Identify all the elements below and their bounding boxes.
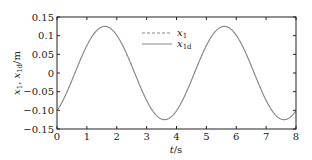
legend: x1 x1d <box>142 27 192 51</box>
y-tick-label: 0.15 <box>32 12 54 23</box>
x-tick-label: 6 <box>233 131 239 142</box>
x-tick-label: 5 <box>203 131 209 142</box>
y-tick-label: −0.05 <box>23 86 54 97</box>
x-tick-label: 7 <box>263 131 269 142</box>
y-axis-label: x1, x1d/m <box>11 51 24 95</box>
x-tick-label: 2 <box>114 131 120 142</box>
y-tick-label: 0 <box>48 68 54 79</box>
y-tick-labels: 0.150.10.050−0.05−0.10−0.15 <box>23 12 54 135</box>
y-tick-label: −0.10 <box>23 105 54 116</box>
y-tick-label: −0.15 <box>23 124 54 135</box>
x-tick-label: 0 <box>54 131 60 142</box>
x-axis-label: t/s <box>170 144 183 155</box>
x-tick-label: 8 <box>293 131 299 142</box>
x-tick-label: 4 <box>173 131 179 142</box>
chart: 0.150.10.050−0.05−0.10−0.15 012345678 x1… <box>0 0 312 160</box>
x-tick-labels: 012345678 <box>54 131 299 142</box>
y-tick-label: 0.05 <box>32 49 54 60</box>
x-tick-label: 1 <box>84 131 90 142</box>
x-tick-label: 3 <box>143 131 149 142</box>
y-tick-label: 0.1 <box>38 30 54 41</box>
